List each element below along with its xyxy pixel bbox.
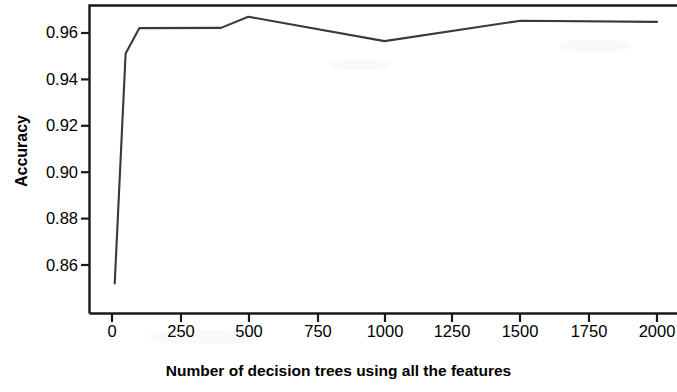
axis-frame — [90, 6, 677, 314]
y-tick-marks — [81, 33, 90, 265]
plot-area — [0, 0, 677, 392]
chart-figure: Accuracy 0.86 0.88 0.90 0.92 0.94 0.96 0… — [0, 0, 677, 392]
data-line-accuracy — [115, 17, 657, 284]
x-tick-marks — [112, 314, 657, 323]
